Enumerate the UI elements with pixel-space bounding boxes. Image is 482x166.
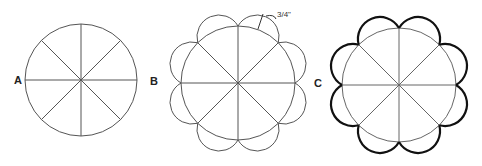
diagram-canvas	[0, 0, 482, 166]
dimension-label: 3/4"	[277, 10, 291, 19]
panel-a-circle	[25, 24, 137, 136]
panel-c-scallop	[331, 17, 467, 153]
panel-b-petals	[170, 14, 306, 151]
panel-label-b: B	[150, 75, 158, 87]
panel-label-a: A	[14, 74, 22, 86]
panel-label-c: C	[314, 77, 322, 89]
